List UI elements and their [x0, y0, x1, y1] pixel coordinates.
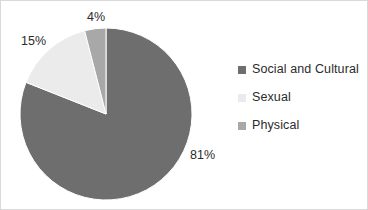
- legend-swatch-icon: [238, 94, 246, 102]
- pie-plot-area: 4% 15% 81%: [1, 1, 241, 210]
- legend-label: Social and Cultural: [252, 63, 359, 76]
- chart-legend: Social and Cultural Sexual Physical: [238, 63, 366, 147]
- legend-label: Sexual: [252, 91, 291, 104]
- legend-swatch-icon: [238, 66, 246, 74]
- legend-swatch-icon: [238, 122, 246, 130]
- slice-label-sexual: 15%: [21, 35, 46, 48]
- legend-item-social-and-cultural[interactable]: Social and Cultural: [238, 63, 366, 76]
- legend-item-sexual[interactable]: Sexual: [238, 91, 366, 104]
- pie-svg: [1, 1, 241, 210]
- slice-label-physical: 4%: [87, 11, 105, 24]
- pie-chart-figure: 4% 15% 81% Social and Cultural Sexual Ph…: [0, 0, 368, 210]
- legend-item-physical[interactable]: Physical: [238, 119, 366, 132]
- pie-slices-group: [20, 28, 192, 200]
- slice-label-social-and-cultural: 81%: [190, 149, 215, 162]
- legend-label: Physical: [252, 119, 299, 132]
